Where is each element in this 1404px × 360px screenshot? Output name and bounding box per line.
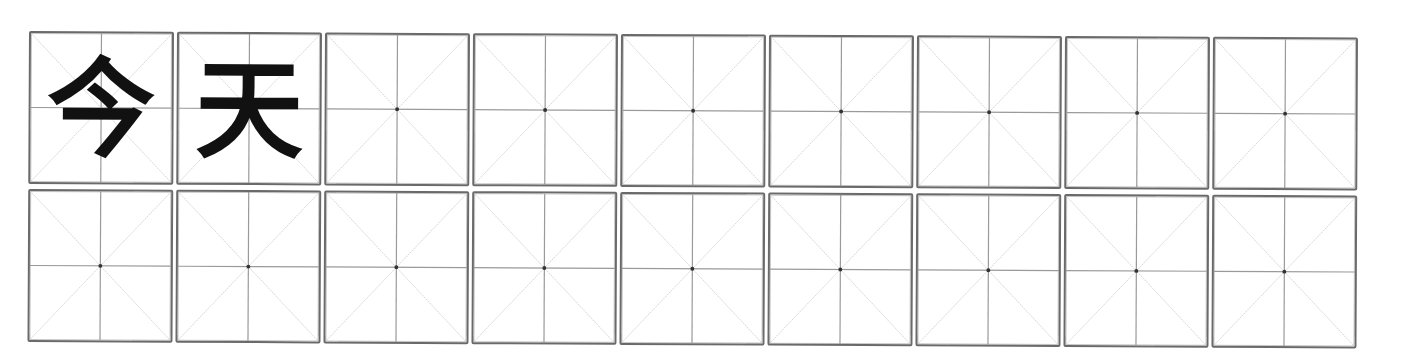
practice-character: [325, 192, 467, 342]
character-practice-sheet: 今 天: [27, 31, 1389, 354]
grid-cell[interactable]: 今: [28, 31, 174, 185]
grid-cell[interactable]: [324, 32, 470, 186]
grid-row-1: 今 天: [28, 31, 1358, 190]
grid-cell[interactable]: 天: [176, 32, 322, 186]
practice-character: 今: [30, 33, 172, 183]
practice-character: [622, 36, 764, 186]
practice-character: [473, 193, 615, 343]
practice-character: [769, 195, 911, 345]
grid-cell[interactable]: [620, 34, 766, 188]
grid-cell[interactable]: [915, 193, 1061, 347]
grid-cell[interactable]: [1063, 194, 1209, 348]
grid-cell[interactable]: [768, 35, 914, 189]
grid-row-2: [27, 189, 1357, 348]
grid-cell[interactable]: [767, 193, 913, 347]
practice-character: [29, 191, 171, 341]
grid-cell[interactable]: [175, 190, 321, 344]
grid-cell[interactable]: [1211, 195, 1357, 349]
practice-character: [177, 192, 319, 342]
practice-character: [474, 35, 616, 185]
practice-character: [918, 37, 1060, 187]
practice-character: [1066, 38, 1208, 188]
practice-character: [1214, 39, 1356, 189]
practice-character: [1213, 197, 1355, 347]
practice-character: [1065, 196, 1207, 346]
grid-cell[interactable]: [27, 189, 173, 343]
practice-character: [770, 37, 912, 187]
practice-character: [917, 195, 1059, 345]
grid-cell[interactable]: [323, 190, 469, 344]
grid-cell[interactable]: [472, 33, 618, 187]
grid-cell[interactable]: [471, 191, 617, 345]
grid-cell[interactable]: [619, 192, 765, 346]
practice-character: 天: [178, 34, 320, 184]
practice-character: [621, 194, 763, 344]
grid-cell[interactable]: [1212, 37, 1358, 191]
practice-character: [326, 34, 468, 184]
grid-cell[interactable]: [916, 35, 1062, 189]
grid-cell[interactable]: [1064, 36, 1210, 190]
